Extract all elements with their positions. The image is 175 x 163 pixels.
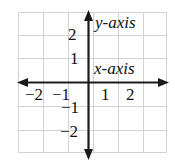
coordinate-plane-figure: −2 −1 1 2 2 1 −1 −2 x-axis y-axis bbox=[0, 0, 175, 163]
x-tick-label-pos2: 2 bbox=[126, 86, 134, 103]
y-tick-label-pos1: 1 bbox=[70, 50, 78, 67]
y-tick-label-neg1: −1 bbox=[61, 99, 79, 116]
y-tick-label-neg2: −2 bbox=[60, 123, 78, 140]
y-axis-label: y-axis bbox=[95, 14, 136, 31]
y-tick-label-pos2: 2 bbox=[68, 26, 76, 43]
x-axis-label: x-axis bbox=[94, 60, 135, 77]
coordinate-plane-svg bbox=[0, 0, 175, 163]
x-tick-label-neg2: −2 bbox=[25, 86, 43, 103]
x-tick-label-pos1: 1 bbox=[101, 86, 109, 103]
